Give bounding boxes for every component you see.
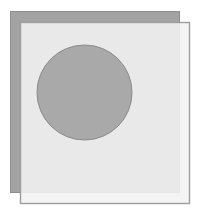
diagram-canvas	[0, 0, 207, 216]
circle	[37, 45, 132, 140]
